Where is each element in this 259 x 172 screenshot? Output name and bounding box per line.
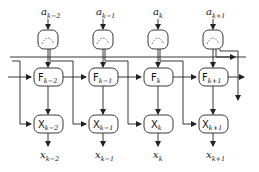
input-label: ak−1 <box>96 6 116 20</box>
processing-chain-diagram: ak−2 Fk−2 Xk−2 xk−2 ak−1 Fk−1 Xk−1 xk−1 … <box>0 0 259 172</box>
column-k: ak Fk Xk xk <box>144 6 196 163</box>
column-k-1: ak−1 Fk−1 Xk−1 xk−1 <box>89 6 141 163</box>
left-feed-line <box>12 61 31 124</box>
splitter-node <box>148 30 168 49</box>
column-k-2: ak−2 Fk−2 Xk−2 xk−2 <box>34 6 86 163</box>
input-label: ak <box>153 6 163 20</box>
output-label: xk−1 <box>95 149 114 163</box>
column-k+1: ak+1 Fk+1 Xk+1 xk+1 <box>199 6 244 163</box>
splitter-node <box>203 30 223 49</box>
input-label: ak+1 <box>206 6 226 20</box>
splitter-node <box>93 30 113 49</box>
splitter-node <box>38 30 58 49</box>
input-label: ak−2 <box>41 6 61 20</box>
output-label: xk+1 <box>206 149 225 163</box>
output-label: xk−2 <box>40 149 59 163</box>
output-label: xk <box>153 149 163 163</box>
